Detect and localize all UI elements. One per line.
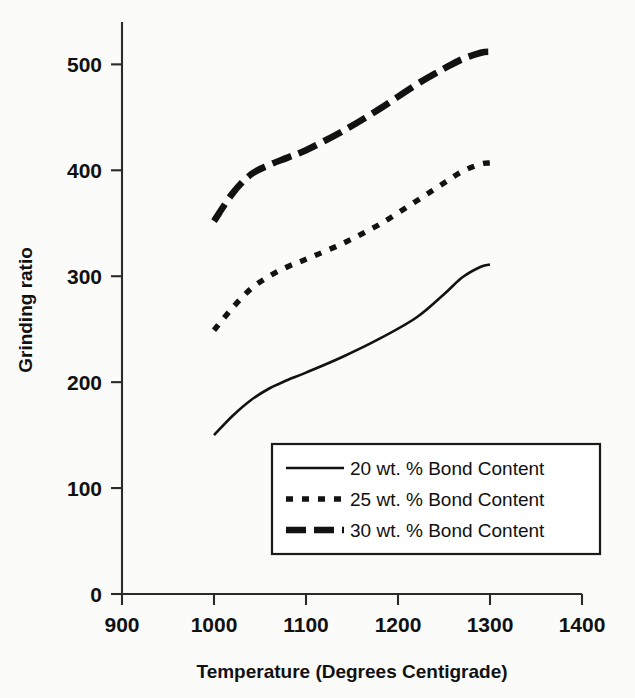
y-axis-ticks [111,22,122,594]
y-tick-label: 0 [90,583,102,606]
chart-legend: 20 wt. % Bond Content25 wt. % Bond Conte… [272,444,600,554]
y-tick-label: 500 [67,53,102,76]
x-tick-label: 900 [104,613,139,636]
legend-label: 20 wt. % Bond Content [350,458,545,479]
x-tick-label: 1400 [559,613,606,636]
x-axis-title: Temperature (Degrees Centigrade) [196,661,507,682]
y-axis-title: Grinding ratio [15,247,36,373]
x-tick-label: 1100 [283,613,329,636]
data-series-group [214,52,490,435]
series-line [214,163,490,330]
x-tick-label: 1000 [191,613,238,636]
chart-canvas: 0100200300400500 90010001100120013001400… [0,0,635,698]
x-axis-ticks [122,594,582,605]
x-tick-label: 1200 [375,613,422,636]
series-line [214,52,490,221]
x-axis-tick-labels: 90010001100120013001400 [104,613,605,636]
y-tick-label: 100 [67,477,102,500]
y-axis-tick-labels: 0100200300400500 [67,53,102,606]
y-tick-label: 300 [67,265,102,288]
legend-label: 30 wt. % Bond Content [350,520,545,541]
y-tick-label: 200 [67,371,102,394]
chart-figure: 0100200300400500 90010001100120013001400… [0,0,635,698]
series-line [214,265,490,436]
x-tick-label: 1300 [467,613,514,636]
legend-label: 25 wt. % Bond Content [350,489,545,510]
y-tick-label: 400 [67,159,102,182]
